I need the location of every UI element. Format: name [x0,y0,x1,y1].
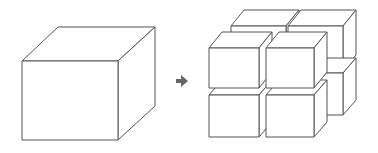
cube-front-top-right [266,32,327,88]
cube-front-bottom-left [209,80,272,137]
cube-front-top-left [209,32,272,88]
split-cubes [209,10,356,137]
diagram-canvas [0,0,378,153]
right-arrow-icon [176,75,188,87]
large-cube-front-face [22,61,118,140]
cube-front-bottom-right [266,80,327,137]
large-cube [22,27,155,140]
